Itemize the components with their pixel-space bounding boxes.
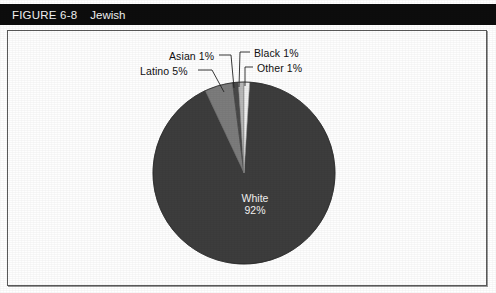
pie-label-white: White 92%: [222, 192, 288, 216]
figure-frame: [7, 30, 487, 286]
figure-header-bar: FIGURE 6-8 Jewish: [0, 4, 496, 25]
pie-label-white-percent: 92%: [222, 204, 288, 216]
pie-label-asian: Asian 1%: [169, 50, 214, 62]
figure-title: Jewish: [90, 9, 125, 21]
pie-label-black: Black 1%: [254, 47, 299, 59]
pie-label-white-name: White: [242, 192, 269, 204]
pie-label-other: Other 1%: [257, 62, 302, 74]
figure-number: FIGURE 6-8: [12, 9, 77, 21]
pie-label-latino: Latino 5%: [140, 65, 188, 77]
